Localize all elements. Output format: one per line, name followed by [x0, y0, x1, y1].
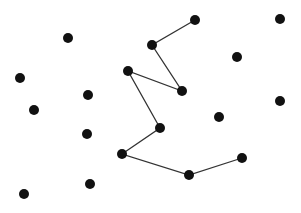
- dot: [15, 73, 25, 83]
- dot: [275, 96, 285, 106]
- dot: [214, 112, 224, 122]
- dot-path-diagram: [0, 0, 301, 213]
- path-dot: [190, 15, 200, 25]
- path-dot: [117, 149, 127, 159]
- diagram-canvas: [0, 0, 301, 213]
- dots: [15, 14, 285, 199]
- path-dot: [147, 40, 157, 50]
- path-dot: [155, 123, 165, 133]
- dot: [83, 90, 93, 100]
- path-dot: [177, 86, 187, 96]
- dot: [85, 179, 95, 189]
- path-dot: [237, 153, 247, 163]
- path-line: [122, 20, 242, 175]
- dot: [63, 33, 73, 43]
- path-dot: [184, 170, 194, 180]
- dot: [29, 105, 39, 115]
- path-dot: [123, 66, 133, 76]
- dot: [82, 129, 92, 139]
- connecting-path: [122, 20, 242, 175]
- dot: [232, 52, 242, 62]
- dot: [19, 189, 29, 199]
- dot: [275, 14, 285, 24]
